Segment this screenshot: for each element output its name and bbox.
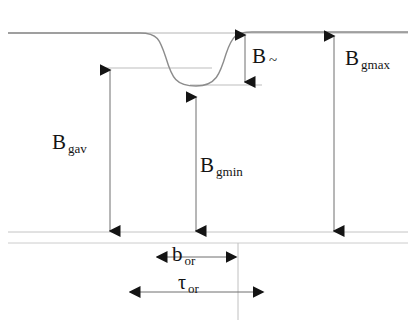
flux-density-slot-diagram: B~ Bgmax Bgav Bgmin bor τor (0, 0, 416, 332)
label-b-tilde: B~ (252, 46, 277, 67)
label-b-gav-base: B (52, 130, 66, 154)
label-b-gmin-sub: gmin (214, 164, 243, 179)
label-tau-or: τor (178, 272, 199, 292)
label-b-gmax-sub: gmax (359, 57, 390, 72)
label-b-or: bor (172, 244, 195, 265)
label-b-gmin: Bgmin (200, 155, 243, 176)
label-tau-or-sub: or (186, 281, 199, 296)
label-b-tilde-sub: ~ (266, 52, 277, 68)
label-b-gav-sub: gav (66, 141, 87, 156)
label-tau-or-base: τ (178, 271, 186, 293)
label-b-or-base: b (172, 242, 183, 266)
label-b-gav: Bgav (52, 132, 87, 153)
label-b-gmin-base: B (200, 153, 214, 177)
label-b-tilde-base: B (252, 44, 266, 68)
label-b-or-sub: or (183, 253, 196, 268)
label-b-gmax-base: B (345, 46, 359, 70)
label-b-gmax: Bgmax (345, 48, 390, 69)
